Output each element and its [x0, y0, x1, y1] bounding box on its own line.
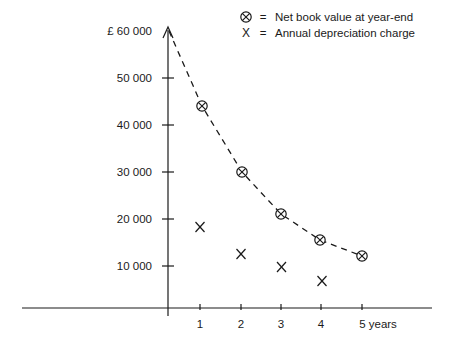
legend-equals-depreciation-charge: = [260, 27, 267, 39]
x-tick-label-4: 4 [318, 318, 325, 330]
legend-row-depreciation-charge: X = Annual depreciation charge [242, 26, 415, 40]
y-tick-label-60000: £ 60 000 [107, 25, 152, 37]
marker-net-book-value-year2 [237, 167, 247, 177]
y-tick-label-40000: 40 000 [117, 119, 152, 131]
legend-equals-net-book-value: = [260, 11, 267, 23]
legend-label-net-book-value: Net book value at year-end [275, 11, 413, 23]
x-tick-label-5-years: 5 years [359, 318, 397, 330]
y-tick-label-50000: 50 000 [117, 72, 152, 84]
legend: = Net book value at year-end X = Annual … [241, 11, 415, 40]
marker-net-book-value-year4 [315, 235, 325, 245]
marker-depreciation-year2 [237, 249, 246, 259]
marker-depreciation-year4 [318, 276, 327, 286]
marker-net-book-value-year5 [357, 251, 367, 261]
y-tick-label-10000: 10 000 [117, 260, 152, 272]
y-tick-label-30000: 30 000 [117, 166, 152, 178]
x-tick-label-3: 3 [278, 318, 284, 330]
circled-cross-icon [241, 12, 251, 22]
legend-label-depreciation-charge: Annual depreciation charge [275, 27, 415, 39]
cross-icon: X [242, 26, 250, 40]
marker-net-book-value-year1 [197, 101, 207, 111]
marker-depreciation-year1 [196, 222, 205, 232]
legend-row-net-book-value: = Net book value at year-end [241, 11, 413, 23]
net-book-value-trend-line [169, 31, 362, 256]
depreciation-chart: £ 60 000 50 000 40 000 30 000 20 000 10 … [0, 0, 451, 349]
marker-net-book-value-year3 [276, 209, 286, 219]
marker-depreciation-year3 [277, 262, 286, 272]
x-tick-label-2: 2 [238, 318, 244, 330]
x-tick-label-1: 1 [197, 318, 203, 330]
y-tick-label-20000: 20 000 [117, 213, 152, 225]
chart-page: £ 60 000 50 000 40 000 30 000 20 000 10 … [0, 0, 451, 349]
